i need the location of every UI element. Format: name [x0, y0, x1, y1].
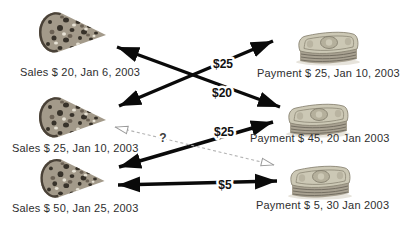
sales-payments-matching-diagram: $25 $20 $25 $5 ? Sales $ 20, Jan 6, 2003…: [0, 0, 415, 226]
sales-item-2: [36, 93, 108, 145]
arrow-question-label: ?: [159, 131, 166, 145]
sales-label-3: Sales $ 50, Jan 25, 2003: [12, 201, 139, 215]
pizza-slice-icon: [36, 155, 108, 201]
arrow-amount-label: $25: [213, 57, 233, 71]
payment-item-1: [291, 25, 365, 71]
money-stack-icon: [283, 160, 357, 200]
payment-label-2: Payment $ 45, 20 Jan 2003: [250, 131, 390, 145]
pizza-slice-icon: [36, 8, 108, 56]
link-arrow-sales3-payment3: [118, 181, 277, 185]
sales-item-3: [36, 155, 108, 205]
money-stack-icon: [291, 25, 365, 67]
sales-label-2: Sales $ 25, Jan 10, 2003: [12, 141, 139, 155]
arrow-amount-label: $5: [218, 178, 232, 192]
pizza-slice-icon: [36, 93, 108, 141]
payment-label-1: Payment $ 25, Jan 10, 2003: [257, 66, 400, 80]
arrow-amount-label: $20: [212, 86, 232, 100]
arrow-amount-label: $25: [214, 125, 234, 139]
payment-label-3: Payment $ 5, 30 Jan 2003: [256, 198, 389, 212]
sales-item-1: [36, 8, 108, 60]
sales-label-1: Sales $ 20, Jan 6, 2003: [20, 65, 140, 79]
